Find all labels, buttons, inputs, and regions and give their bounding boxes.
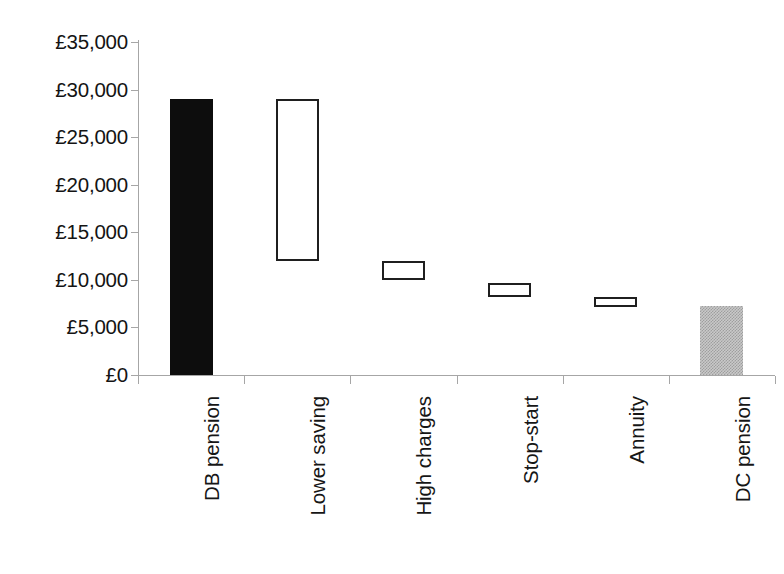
x-axis-category-label: Annuity [626,396,647,566]
category-labels: DB pensionLower savingHigh chargesStop-s… [0,0,784,574]
waterfall-chart: £35,000£30,000£25,000£20,000£15,000£10,0… [0,0,784,574]
x-axis-category-label: Stop-start [520,396,541,566]
x-axis-category-label: DB pension [201,396,222,566]
x-axis-category-label: High charges [413,396,434,566]
x-axis-category-label: DC pension [732,396,753,566]
x-axis-category-label: Lower saving [307,396,328,566]
